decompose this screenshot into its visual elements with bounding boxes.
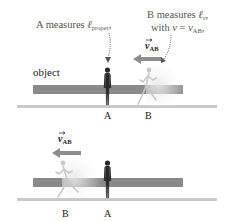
velocity-arrow-top — [133, 54, 162, 64]
vector-arrow-top — [146, 39, 152, 42]
pointer-b — [163, 35, 171, 60]
person-a-icon-top — [104, 67, 110, 105]
velocity-arrow-bottom — [52, 148, 81, 158]
pointer-a — [108, 33, 110, 58]
diagram-graphics — [0, 0, 230, 221]
person-a-icon-bottom — [104, 160, 110, 198]
vector-arrow-bottom — [59, 132, 65, 135]
